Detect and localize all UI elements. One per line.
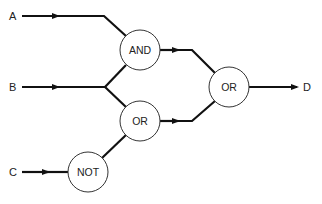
wire-or1-output [160, 101, 215, 121]
gate-or-lower-label: OR [132, 115, 148, 127]
gate-not-label: NOT [77, 166, 100, 178]
gate-or-final-label: OR [221, 81, 237, 93]
input-label-c: C [9, 166, 17, 178]
wire-and-output [160, 50, 215, 73]
input-label-a: A [9, 10, 17, 22]
wire-a [22, 16, 126, 36]
gate-or-lower: OR [120, 101, 160, 141]
logic-circuit-diagram: A B C D AND OR NOT [0, 0, 322, 204]
wire-not-to-or [102, 135, 126, 158]
input-label-b: B [9, 81, 16, 93]
gate-and-label: AND [129, 44, 152, 56]
output-label-d: D [303, 81, 311, 93]
gate-not: NOT [68, 152, 108, 192]
gate-or-final: OR [209, 67, 249, 107]
wire-b [22, 65, 126, 107]
gate-and: AND [120, 30, 160, 70]
